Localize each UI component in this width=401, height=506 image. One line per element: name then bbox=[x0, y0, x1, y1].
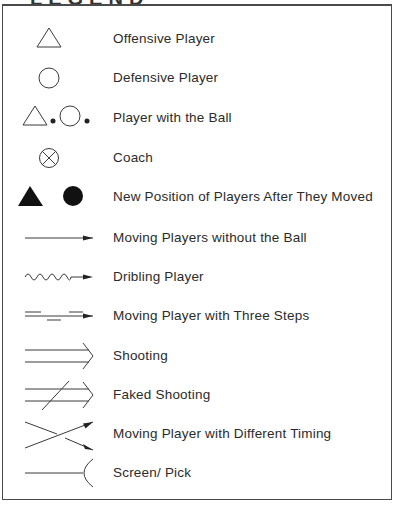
dashed-steps-arrow-icon bbox=[17, 299, 103, 335]
legend-label: Offensive Player bbox=[113, 31, 215, 46]
wavy-arrow-icon bbox=[17, 260, 103, 296]
straight-arrow-icon bbox=[17, 221, 103, 257]
legend-label: Faked Shooting bbox=[113, 387, 210, 402]
legend-row-player-with-ball: Player with the Ball bbox=[3, 101, 393, 137]
faked-shooting-icon bbox=[17, 378, 103, 414]
legend-row-faked-shooting: Faked Shooting bbox=[3, 378, 393, 414]
legend-row-defensive-player: Defensive Player bbox=[3, 61, 393, 97]
legend-label: Coach bbox=[113, 150, 153, 165]
legend-row-three-steps: Moving Player with Three Steps bbox=[3, 299, 393, 335]
legend-row-new-position: New Position of Players After They Moved bbox=[3, 180, 393, 216]
legend-label: Moving Player with Three Steps bbox=[113, 308, 309, 323]
legend-row-screen-pick: Screen/ Pick bbox=[3, 456, 393, 492]
filled-triangle-and-circle-icon bbox=[17, 180, 103, 216]
legend-label: Defensive Player bbox=[113, 70, 218, 85]
legend-row-dribbling: Dribling Player bbox=[3, 260, 393, 296]
legend-label: Moving Player with Different Timing bbox=[113, 426, 331, 441]
legend-label: Player with the Ball bbox=[113, 110, 232, 125]
legend-box: Offensive Player Defensive Player Player… bbox=[2, 4, 392, 500]
legend-label: New Position of Players After They Moved bbox=[113, 189, 373, 204]
hollow-circle-icon bbox=[17, 61, 103, 97]
crossed-arrows-icon bbox=[17, 417, 103, 453]
circled-x-icon bbox=[17, 141, 103, 177]
legend-label: Screen/ Pick bbox=[113, 465, 191, 480]
legend-row-moving-without-ball: Moving Players without the Ball bbox=[3, 221, 393, 257]
legend-row-shooting: Shooting bbox=[3, 339, 393, 375]
hollow-triangle-icon bbox=[17, 22, 103, 58]
screen-pick-icon bbox=[17, 456, 103, 492]
shooting-icon bbox=[17, 339, 103, 375]
legend-row-different-timing: Moving Player with Different Timing bbox=[3, 417, 393, 453]
legend-row-coach: Coach bbox=[3, 141, 393, 177]
legend-label: Shooting bbox=[113, 348, 168, 363]
legend-row-offensive-player: Offensive Player bbox=[3, 22, 393, 58]
legend-label: Moving Players without the Ball bbox=[113, 230, 307, 245]
legend-label: Dribling Player bbox=[113, 269, 204, 284]
player-with-ball-icon bbox=[17, 101, 103, 137]
